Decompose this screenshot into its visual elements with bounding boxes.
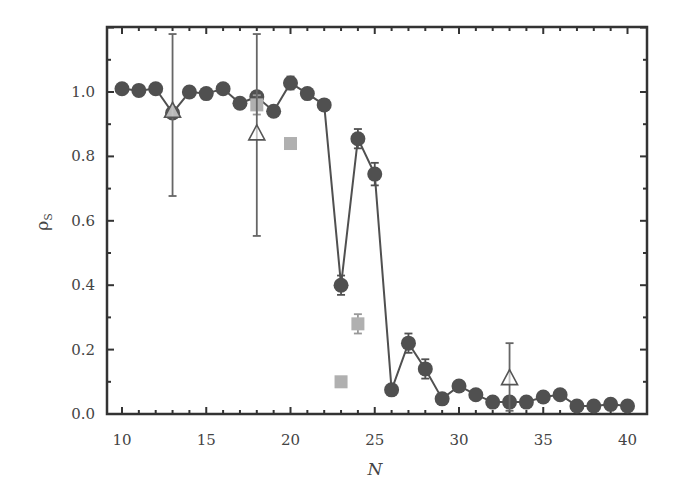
x-tick-label: 30 <box>449 431 468 449</box>
circle-marker <box>350 131 365 146</box>
square-marker <box>351 317 364 330</box>
circle-marker <box>266 104 281 119</box>
circle-marker <box>384 382 399 397</box>
circle-marker <box>553 387 568 402</box>
series-squares <box>250 95 364 388</box>
circle-marker <box>586 398 601 413</box>
circle-marker <box>620 398 635 413</box>
square-marker <box>335 375 348 388</box>
circle-marker <box>232 96 247 111</box>
circle-marker <box>115 81 130 96</box>
square-marker <box>284 137 297 150</box>
data-series <box>115 34 636 413</box>
svg-text:ρS: ρS <box>32 213 55 231</box>
x-tick-label: 20 <box>281 431 300 449</box>
y-tick-label: 0.0 <box>71 405 95 423</box>
circle-marker <box>401 336 416 351</box>
circle-marker <box>603 397 618 412</box>
x-tick-label: 40 <box>618 431 637 449</box>
y-axis-title-sub: S <box>42 213 55 221</box>
circle-marker <box>519 395 534 410</box>
y-tick-label: 1.0 <box>71 83 95 101</box>
chart: 10152025303540 0.00.20.40.60.81.0 N ρS <box>0 0 681 503</box>
x-tick-label: 35 <box>534 431 553 449</box>
x-axis-title: N <box>367 459 384 479</box>
circle-marker <box>485 395 500 410</box>
circle-marker <box>452 378 467 393</box>
circle-marker <box>569 398 584 413</box>
circle-marker <box>216 81 231 96</box>
y-tick-label: 0.2 <box>71 341 95 359</box>
triangle-marker <box>502 370 518 385</box>
circle-marker <box>317 97 332 112</box>
triangle-marker <box>249 125 265 140</box>
series-circles <box>115 75 636 413</box>
circle-marker <box>367 167 382 182</box>
y-tick-label: 0.4 <box>71 276 95 294</box>
y-tick-label: 0.8 <box>71 147 95 165</box>
circle-marker <box>182 85 197 100</box>
x-tick-label: 25 <box>365 431 384 449</box>
circle-marker <box>435 391 450 406</box>
circle-marker <box>334 278 349 293</box>
circle-marker <box>148 81 163 96</box>
y-tick-label: 0.6 <box>71 212 95 230</box>
y-axis-title: ρS <box>32 213 55 231</box>
circle-marker <box>283 75 298 90</box>
x-tick-label: 10 <box>112 431 131 449</box>
circle-marker <box>199 86 214 101</box>
circle-marker <box>418 361 433 376</box>
circle-marker <box>536 389 551 404</box>
circle-marker <box>131 83 146 98</box>
y-axis-title-main: ρ <box>32 221 52 231</box>
circle-marker <box>300 86 315 101</box>
series-line <box>122 83 628 406</box>
x-tick-label: 15 <box>197 431 216 449</box>
circle-marker <box>468 387 483 402</box>
